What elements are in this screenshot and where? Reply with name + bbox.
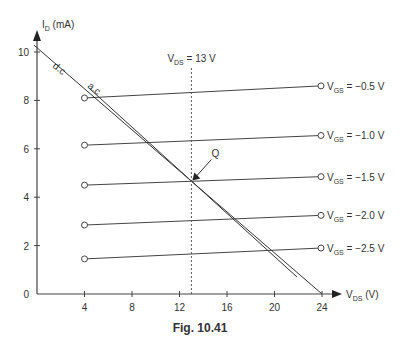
curve-end-marker — [318, 174, 324, 180]
curve-start-marker — [82, 142, 88, 148]
curve-end-marker — [318, 245, 324, 251]
vgs-curve — [85, 215, 322, 225]
y-tick-label: 10 — [18, 47, 30, 58]
plot-area: VDS (V)ID (mA)48121620240246810VGS = −0.… — [18, 19, 385, 335]
x-tick-label: 20 — [269, 302, 281, 313]
vgs-label: VGS = −2.0 V — [327, 210, 385, 223]
curve-end-marker — [318, 83, 324, 89]
y-axis-label: ID (mA) — [42, 19, 74, 32]
y-tick-label: 2 — [23, 241, 29, 252]
vds-annotation: VDS = 13 V — [167, 53, 216, 66]
y-tick-label: 8 — [23, 95, 29, 106]
q-point-label: Q — [211, 148, 219, 159]
y-tick-label: 6 — [23, 144, 29, 155]
vgs-label: VGS = −1.5 V — [327, 172, 385, 185]
vgs-label: VGS = −0.5 V — [327, 81, 385, 94]
ac-line-label: a.c — [86, 80, 103, 97]
curve-start-marker — [82, 95, 88, 101]
x-tick-label: 12 — [174, 302, 186, 313]
figure-caption: Fig. 10.41 — [173, 321, 228, 335]
y-tick-label: 4 — [23, 192, 29, 203]
vgs-curve — [85, 248, 322, 259]
vgs-curve — [85, 86, 322, 98]
ac-load-line — [89, 88, 297, 277]
curve-start-marker — [82, 222, 88, 228]
x-tick-label: 24 — [316, 302, 328, 313]
x-tick-label: 16 — [221, 302, 233, 313]
y-axis-arrow-icon — [33, 30, 41, 41]
x-axis-label: VDS (V) — [346, 289, 379, 302]
curve-start-marker — [82, 256, 88, 262]
curve-start-marker — [82, 182, 88, 188]
chart: VDS (V)ID (mA)48121620240246810VGS = −0.… — [0, 0, 400, 351]
vgs-curve — [85, 177, 322, 185]
curve-end-marker — [318, 212, 324, 218]
vgs-label: VGS = −2.5 V — [327, 243, 385, 256]
vgs-label: VGS = −1.0 V — [327, 130, 385, 143]
vgs-curve — [85, 135, 322, 145]
y-tick-label: 0 — [23, 289, 29, 300]
curve-end-marker — [318, 132, 324, 138]
x-tick-label: 4 — [82, 302, 88, 313]
x-axis-arrow-icon — [332, 290, 342, 298]
x-tick-label: 8 — [129, 302, 135, 313]
